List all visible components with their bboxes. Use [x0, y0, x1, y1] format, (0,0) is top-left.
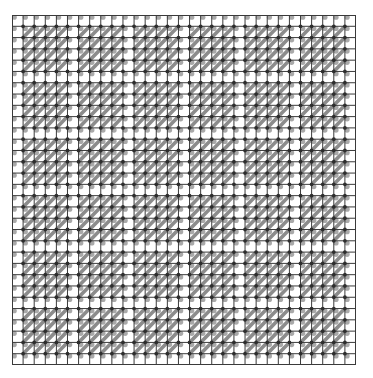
node-dot [254, 47, 258, 51]
node-dot [332, 228, 336, 232]
node-dot [332, 137, 336, 141]
node-dot [254, 149, 258, 153]
node-dot [143, 47, 147, 51]
node-dot [299, 70, 303, 74]
node-dot [121, 307, 125, 311]
node-dot [232, 160, 236, 164]
node-dot [132, 250, 136, 254]
node-dot [243, 295, 247, 299]
node-dot [343, 352, 347, 356]
node-dot [177, 329, 181, 333]
node-dot [232, 194, 236, 198]
node-dot [254, 70, 258, 74]
node-dot [121, 194, 125, 198]
node-dot [332, 295, 336, 299]
node-dot [265, 352, 269, 356]
node-dot [232, 24, 236, 28]
node-dot [232, 239, 236, 243]
node-dot [88, 194, 92, 198]
node-dot [232, 58, 236, 62]
node-dot [254, 284, 258, 288]
node-dot [43, 318, 47, 322]
node-dot [32, 329, 36, 333]
node-dot [88, 36, 92, 40]
node-dot [165, 295, 169, 299]
node-dot [77, 70, 81, 74]
node-dot [165, 239, 169, 243]
node-dot [321, 171, 325, 175]
node-dot [321, 92, 325, 96]
node-dot [99, 149, 103, 153]
node-dot [188, 307, 192, 311]
node-dot [43, 261, 47, 265]
node-dot [132, 273, 136, 277]
node-dot [143, 171, 147, 175]
node-dot [221, 171, 225, 175]
node-dot [188, 160, 192, 164]
node-dot [165, 92, 169, 96]
node-dot [132, 352, 136, 356]
node-dot [77, 239, 81, 243]
node-dot [99, 194, 103, 198]
node-dot [243, 250, 247, 254]
node-dot [21, 103, 25, 107]
node-dot [254, 261, 258, 265]
node-dot [99, 92, 103, 96]
node-dot [243, 261, 247, 265]
node-dot [121, 284, 125, 288]
node-dot [199, 115, 203, 119]
node-dot [21, 261, 25, 265]
node-dot [276, 352, 280, 356]
node-dot [143, 36, 147, 40]
node-dot [54, 273, 58, 277]
node-dot [232, 171, 236, 175]
node-dot [110, 341, 114, 345]
node-dot [165, 284, 169, 288]
node-dot [243, 171, 247, 175]
node-dot [110, 160, 114, 164]
node-dot [77, 295, 81, 299]
node-dot [254, 36, 258, 40]
node-dot [154, 160, 158, 164]
node-dot [165, 47, 169, 51]
node-dot [54, 149, 58, 153]
node-dot [321, 307, 325, 311]
node-dot [210, 273, 214, 277]
node-dot [121, 115, 125, 119]
node-dot [132, 318, 136, 322]
node-dot [199, 341, 203, 345]
node-dot [221, 115, 225, 119]
node-dot [221, 47, 225, 51]
node-dot [321, 149, 325, 153]
node-dot [210, 81, 214, 85]
node-dot [132, 149, 136, 153]
node-dot [310, 273, 314, 277]
node-dot [299, 250, 303, 254]
node-dot [110, 250, 114, 254]
node-dot [88, 239, 92, 243]
node-dot [110, 126, 114, 130]
node-dot [110, 352, 114, 356]
node-dot [54, 137, 58, 141]
node-dot [154, 307, 158, 311]
node-dot [77, 194, 81, 198]
node-dot [288, 58, 292, 62]
node-dot [43, 47, 47, 51]
node-dot [121, 182, 125, 186]
node-dot [210, 103, 214, 107]
node-dot [310, 149, 314, 153]
node-dot [254, 329, 258, 333]
node-dot [132, 160, 136, 164]
node-dot [54, 239, 58, 243]
node-dot [32, 126, 36, 130]
node-dot [99, 137, 103, 141]
node-dot [88, 24, 92, 28]
node-dot [243, 239, 247, 243]
node-dot [54, 58, 58, 62]
node-dot [265, 239, 269, 243]
node-dot [321, 205, 325, 209]
node-dot [299, 36, 303, 40]
node-dot [265, 149, 269, 153]
node-dot [43, 137, 47, 141]
node-dot [254, 92, 258, 96]
